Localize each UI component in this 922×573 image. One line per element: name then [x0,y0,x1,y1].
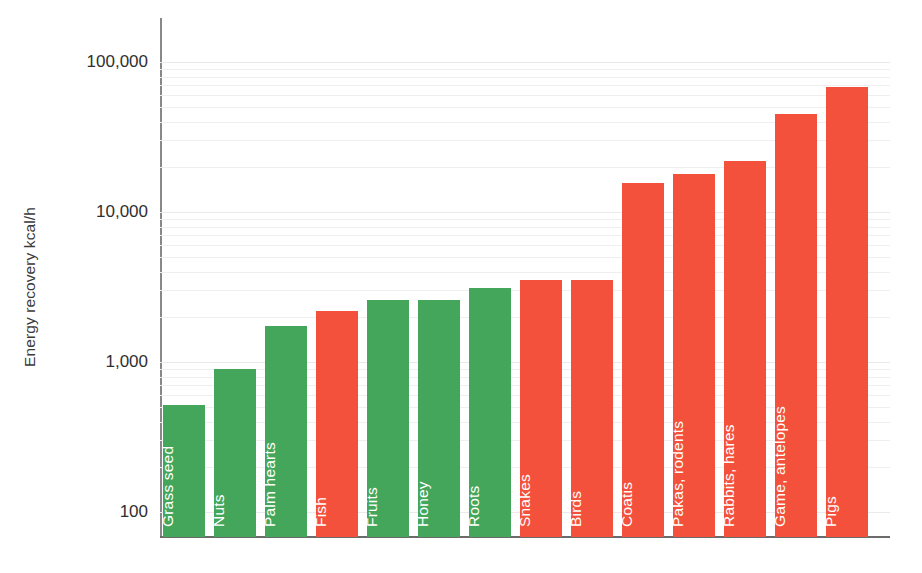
y-axis-tick-100: 100 [0,502,158,522]
bar-label-text: Grass seed [159,446,177,527]
bar-fish[interactable]: Fish [316,311,358,537]
y-axis-tick-1000: 1,000 [0,352,158,372]
bar-pakas-rodents[interactable]: Pakas, rodents [673,174,715,537]
bar-nuts[interactable]: Nuts [214,369,256,537]
plot-area: Grass seedNutsPalm heartsFishFruitsHoney… [160,18,890,537]
bar-fruits[interactable]: Fruits [367,300,409,537]
bar-label-text: Pigs [822,496,840,527]
y-axis-tick-100000: 100,000 [0,52,158,72]
bar-label-text: Fruits [363,487,381,527]
bar-label-text: Palm hearts [261,442,279,527]
bar-series: Grass seedNutsPalm heartsFishFruitsHoney… [160,18,890,537]
bar-label-text: Coatis [618,482,636,527]
bar-coatis[interactable]: Coatis [622,183,664,537]
bar-rabbits-hares[interactable]: Rabbits, hares [724,161,766,537]
bar-grass-seed[interactable]: Grass seed [163,405,205,537]
bar-label-text: Rabbits, hares [720,424,738,527]
y-axis-tick-10000: 10,000 [0,202,158,222]
bar-pigs[interactable]: Pigs [826,87,868,537]
bar-label-text: Fish [312,497,330,527]
y-axis-tick-labels: 100,00010,0001,000100 [0,0,158,573]
bar-label-text: Game, antelopes [771,406,789,527]
bar-label-text: Snakes [516,474,534,527]
bar-label-text: Honey [414,481,432,527]
bar-roots[interactable]: Roots [469,288,511,537]
bar-label-text: Pakas, rodents [669,421,687,527]
energy-recovery-bar-chart: Energy recovery kcal/h 100,00010,0001,00… [0,0,922,573]
bar-honey[interactable]: Honey [418,300,460,537]
bar-label-text: Nuts [210,494,228,527]
bar-game-antelopes[interactable]: Game, antelopes [775,114,817,537]
bar-birds[interactable]: Birds [571,280,613,537]
bar-snakes[interactable]: Snakes [520,280,562,537]
bar-palm-hearts[interactable]: Palm hearts [265,326,307,537]
bar-label-text: Birds [567,491,585,527]
bar-label-text: Roots [465,486,483,528]
